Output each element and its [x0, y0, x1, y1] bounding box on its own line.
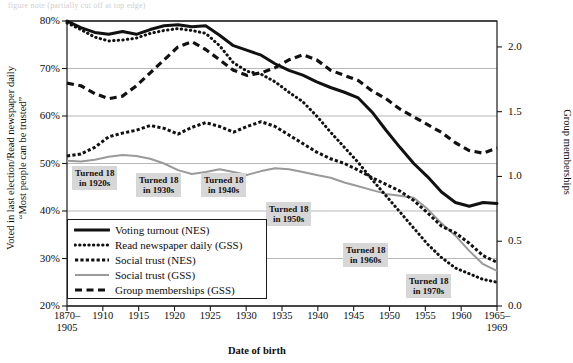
annotation-box: Turned 18in 1920s: [72, 166, 117, 190]
annotation-line2: in 1960s: [346, 255, 385, 266]
annotation-box: Turned 18in 1970s: [406, 274, 451, 298]
annotation-box: Turned 18in 1950s: [266, 202, 311, 226]
legend-item: Voting turnout (NES): [68, 222, 266, 237]
legend-label: Voting turnout (NES): [115, 224, 210, 236]
legend-label: Group memberships (GSS): [115, 284, 235, 296]
x-tick: 1965–1969: [474, 310, 520, 333]
legend-label: Social trust (GSS): [115, 269, 195, 281]
legend-label: Social trust (NES): [115, 254, 196, 266]
legend-swatch: [74, 269, 110, 281]
y-tick-left: 50%: [20, 157, 60, 169]
legend-swatch: [74, 239, 110, 251]
annotation-line1: Turned 18: [204, 175, 243, 186]
y-tick-left: 80%: [20, 14, 60, 26]
legend-item: Read newspaper daily (GSS): [68, 237, 266, 252]
y-tick-left: 30%: [20, 252, 60, 264]
annotation-line2: in 1930s: [139, 185, 178, 196]
series-line: [67, 42, 497, 153]
series-line: [67, 21, 497, 206]
annotation-line2: in 1940s: [204, 185, 243, 196]
legend-swatch: [74, 284, 110, 296]
y-tick-left: 40%: [20, 204, 60, 216]
legend-item: Social trust (GSS): [68, 267, 266, 282]
annotation-line2: in 1970s: [409, 286, 448, 297]
legend-item: Social trust (NES): [68, 252, 266, 267]
annotation-line1: Turned 18: [269, 204, 308, 215]
annotation-box: Turned 18in 1960s: [343, 243, 388, 267]
annotation-line1: Turned 18: [139, 175, 178, 186]
annotation-line2: in 1950s: [269, 214, 308, 225]
y-tick-left: 60%: [20, 109, 60, 121]
legend-swatch: [74, 254, 110, 266]
annotation-box: Turned 18in 1930s: [136, 173, 181, 197]
legend-label: Read newspaper daily (GSS): [115, 239, 242, 251]
annotation-line1: Turned 18: [346, 245, 385, 256]
y-tick-right: 0.5: [508, 234, 548, 246]
y-tick-right: 1.5: [508, 105, 548, 117]
annotation-line1: Turned 18: [75, 168, 114, 179]
y-tick-right: 1.0: [508, 169, 548, 181]
y-tick-right: 2.0: [508, 40, 548, 52]
chart-legend: Voting turnout (NES)Read newspaper daily…: [67, 219, 267, 299]
annotation-line1: Turned 18: [409, 276, 448, 287]
legend-swatch: [74, 224, 110, 236]
y-tick-left: 70%: [20, 62, 60, 74]
legend-item: Group memberships (GSS): [68, 282, 266, 297]
annotation-line2: in 1920s: [75, 178, 114, 189]
annotation-box: Turned 18in 1940s: [201, 173, 246, 197]
